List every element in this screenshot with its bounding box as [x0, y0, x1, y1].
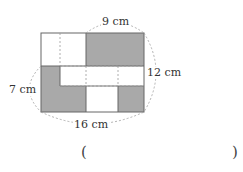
shaded-top-right: [86, 33, 144, 66]
label-bottom-dimension: 16 cm: [73, 119, 109, 131]
label-right-dimension: 12 cm: [146, 67, 182, 79]
answer-open-paren: (: [81, 143, 87, 161]
label-top-dimension: 9 cm: [101, 16, 130, 28]
answer-blank[interactable]: [92, 143, 227, 161]
shaded-bottom-right: [118, 86, 144, 112]
answer-close-paren: ): [232, 143, 238, 161]
shaded-left-l-shape: [41, 66, 86, 112]
label-left-dimension: 7 cm: [8, 84, 37, 96]
